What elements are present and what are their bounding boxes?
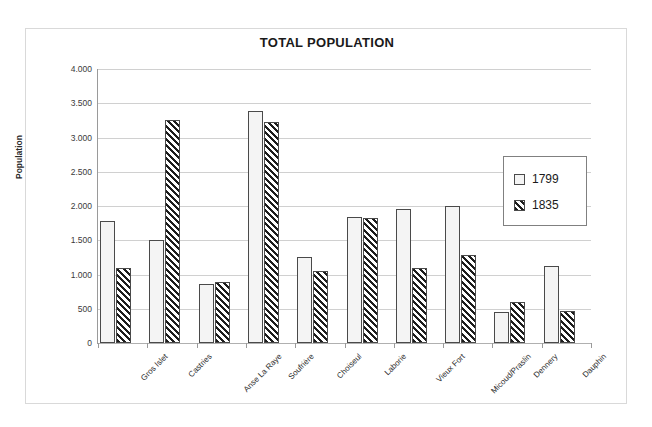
x-axis-tick-mark bbox=[197, 343, 198, 348]
bar-1799 bbox=[347, 217, 362, 343]
y-axis-tick-labels: 05001.0001.5002.0002.5003.0003.5004.000 bbox=[42, 69, 92, 343]
x-axis-tick-label: Gros Islet bbox=[139, 352, 170, 383]
x-axis-tick-mark bbox=[542, 343, 543, 348]
bar-1799 bbox=[248, 111, 263, 343]
bar-group bbox=[98, 69, 147, 343]
legend-label-1799: 1799 bbox=[532, 172, 559, 186]
x-axis-tick-label: Dennery bbox=[532, 352, 560, 380]
x-axis-tick-mark bbox=[345, 343, 346, 348]
x-axis-tick-mark bbox=[394, 343, 395, 348]
y-axis-tick-label: 0 bbox=[46, 338, 92, 348]
y-axis-title: Population bbox=[14, 135, 24, 179]
bar-1799 bbox=[396, 209, 411, 343]
bar-1799 bbox=[494, 312, 509, 343]
x-axis-tick-mark bbox=[295, 343, 296, 348]
bar-1835 bbox=[461, 255, 476, 343]
bar-1835 bbox=[313, 271, 328, 343]
x-axis-tick-mark bbox=[443, 343, 444, 348]
x-axis-tick-mark bbox=[98, 343, 99, 348]
legend-item-1799: 1799 bbox=[514, 166, 586, 192]
bar-group bbox=[246, 69, 295, 343]
bar-1835 bbox=[560, 311, 575, 343]
legend-swatch-1799-icon bbox=[514, 174, 525, 185]
bar-group bbox=[345, 69, 394, 343]
bar-1799 bbox=[297, 257, 312, 343]
x-axis-tick-label: Anse La Raye bbox=[242, 352, 284, 394]
bar-group bbox=[295, 69, 344, 343]
bar-1835 bbox=[363, 218, 378, 343]
x-axis-tick-label: Choiseul bbox=[335, 352, 363, 380]
y-axis-tick-label: 3.000 bbox=[46, 133, 92, 143]
bar-1835 bbox=[116, 268, 131, 343]
x-axis-tick-label: Dauphin bbox=[581, 352, 608, 379]
bar-1835 bbox=[215, 282, 230, 343]
y-axis-tick-label: 1.000 bbox=[46, 270, 92, 280]
bar-group bbox=[147, 69, 196, 343]
bar-1835 bbox=[510, 302, 525, 343]
legend-swatch-1835-icon bbox=[514, 200, 525, 211]
legend-label-1835: 1835 bbox=[532, 198, 559, 212]
y-axis-tick-label: 2.000 bbox=[46, 201, 92, 211]
x-axis-tick-mark bbox=[591, 343, 592, 348]
x-axis-tick-label: Laborie bbox=[383, 352, 408, 377]
y-axis-tick-label: 500 bbox=[46, 304, 92, 314]
bar-group bbox=[197, 69, 246, 343]
x-axis-tick-mark bbox=[492, 343, 493, 348]
x-axis-tick-mark bbox=[147, 343, 148, 348]
y-axis-tick-label: 4.000 bbox=[46, 64, 92, 74]
x-axis-tick-label: Castries bbox=[187, 352, 214, 379]
chart-frame: TOTAL POPULATION Population 05001.0001.5… bbox=[25, 28, 627, 404]
legend-item-1835: 1835 bbox=[514, 192, 586, 218]
x-axis-tick-mark bbox=[246, 343, 247, 348]
bar-group bbox=[394, 69, 443, 343]
bar-group bbox=[443, 69, 492, 343]
x-axis-tick-label: Micoud/Praslin bbox=[489, 352, 532, 395]
bar-1799 bbox=[100, 221, 115, 343]
bar-1835 bbox=[165, 120, 180, 343]
chart-legend: 1799 1835 bbox=[503, 156, 587, 226]
bar-1835 bbox=[412, 268, 427, 343]
bar-1799 bbox=[544, 266, 559, 343]
y-axis-tick-label: 2.500 bbox=[46, 167, 92, 177]
chart-title: TOTAL POPULATION bbox=[26, 35, 628, 50]
x-axis-tick-label: Vieux Fort bbox=[435, 352, 467, 384]
x-axis-tick-label: Soufrière bbox=[286, 352, 315, 381]
bar-1799 bbox=[149, 240, 164, 343]
bar-1799 bbox=[445, 206, 460, 343]
y-axis-tick-label: 3.500 bbox=[46, 98, 92, 108]
y-axis-tick-label: 1.500 bbox=[46, 235, 92, 245]
bar-1835 bbox=[264, 122, 279, 343]
bar-1799 bbox=[199, 284, 214, 343]
